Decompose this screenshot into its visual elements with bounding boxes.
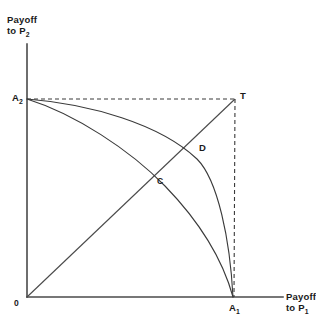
point-label-c: C [157, 176, 163, 186]
diagonal-equal-payoff-ray [27, 99, 235, 297]
y-axis-label-line2: to P [7, 25, 26, 36]
point-label-d-text: D [199, 142, 206, 153]
x-axis-label-line2: to P [286, 302, 305, 313]
point-label-t: T [240, 90, 246, 101]
point-label-a1: A1 [229, 302, 240, 316]
point-label-a2-subscript: 2 [19, 98, 23, 105]
point-label-d: D [199, 142, 206, 153]
x-axis-label-subscript: 1 [305, 308, 309, 315]
point-label-a1-text: A [229, 302, 236, 313]
point-label-t-text: T [240, 90, 246, 101]
payoff-diagram-figure: Payoff to P2 Payoff to P1 A2 T D C A1 0 [0, 0, 316, 331]
point-label-a1-subscript: 1 [236, 308, 240, 315]
y-axis-label-subscript: 2 [26, 31, 30, 38]
y-axis-label-line1: Payoff [7, 14, 37, 25]
x-axis-label: Payoff to P1 [286, 291, 316, 316]
origin-label-text: 0 [14, 298, 19, 308]
y-axis-label: Payoff to P2 [7, 14, 37, 39]
dashed-vertical-guide [234, 99, 235, 297]
x-axis-label-line1: Payoff [286, 291, 316, 302]
point-label-a2: A2 [12, 92, 23, 106]
diagram-canvas [0, 0, 316, 331]
point-label-a2-text: A [12, 92, 19, 103]
point-label-c-text: C [157, 176, 163, 186]
origin-label: 0 [14, 298, 19, 308]
